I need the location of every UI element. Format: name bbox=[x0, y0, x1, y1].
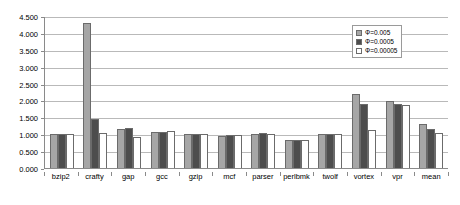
legend-swatch-icon bbox=[356, 30, 362, 36]
legend-item: Φ=0.0005 bbox=[356, 38, 397, 45]
y-tick-label: 0.000 bbox=[19, 165, 38, 174]
x-tick-mark bbox=[78, 172, 79, 176]
legend-label: Φ=0.0005 bbox=[365, 38, 394, 45]
bar-group bbox=[79, 17, 113, 168]
bar bbox=[419, 124, 427, 168]
bar bbox=[66, 134, 74, 168]
bar bbox=[167, 131, 175, 168]
y-tick-label: 1.000 bbox=[19, 131, 38, 140]
y-tick-label: 0.500 bbox=[19, 148, 38, 157]
legend-item: Φ=0.00005 bbox=[356, 47, 397, 54]
bar bbox=[293, 140, 301, 168]
x-tick-label: vpr bbox=[381, 172, 415, 181]
bar bbox=[50, 134, 58, 168]
bar bbox=[117, 129, 125, 168]
bar-group bbox=[280, 17, 314, 168]
x-tick-label: mean bbox=[414, 172, 448, 181]
bar-group bbox=[112, 17, 146, 168]
bar-group bbox=[146, 17, 180, 168]
x-axis: bzip2craftygapgccgzipmcfparserperlbmktwo… bbox=[44, 172, 448, 181]
bar bbox=[267, 134, 275, 168]
y-tick-label: 3.500 bbox=[19, 46, 38, 55]
bar bbox=[435, 133, 443, 168]
y-tick-label: 4.500 bbox=[19, 13, 38, 22]
x-tick-mark bbox=[111, 172, 112, 176]
bar bbox=[218, 136, 226, 168]
legend-label: Φ=0.00005 bbox=[365, 47, 397, 54]
bar bbox=[91, 119, 99, 168]
x-tick-mark bbox=[313, 172, 314, 176]
x-tick-label: mcf bbox=[212, 172, 246, 181]
x-tick-label: perlbmk bbox=[280, 172, 314, 181]
x-tick-label: vortex bbox=[347, 172, 381, 181]
bar bbox=[226, 135, 234, 168]
y-tick-mark bbox=[41, 169, 44, 170]
bar-group bbox=[414, 17, 448, 168]
bar bbox=[352, 94, 360, 168]
y-tick-label: 2.000 bbox=[19, 97, 38, 106]
y-tick-label: 4.000 bbox=[19, 29, 38, 38]
x-tick-mark bbox=[381, 172, 382, 176]
bar bbox=[402, 105, 410, 169]
bar bbox=[285, 140, 293, 168]
legend-swatch-icon bbox=[356, 48, 362, 54]
bar-group bbox=[213, 17, 247, 168]
bar bbox=[83, 23, 91, 168]
bar bbox=[200, 134, 208, 168]
bar bbox=[318, 134, 326, 168]
y-axis: 0.0000.5001.0001.5002.0002.5003.0003.500… bbox=[0, 0, 44, 169]
bar bbox=[251, 134, 259, 168]
x-tick-mark bbox=[414, 172, 415, 176]
bar bbox=[184, 134, 192, 168]
x-tick-mark bbox=[347, 172, 348, 176]
bar bbox=[133, 137, 141, 168]
x-tick-label: parser bbox=[246, 172, 280, 181]
y-tick-label: 3.000 bbox=[19, 63, 38, 72]
bar bbox=[234, 135, 242, 168]
x-tick-mark bbox=[44, 172, 45, 176]
bar bbox=[259, 133, 267, 168]
x-tick-label: twolf bbox=[313, 172, 347, 181]
x-tick-mark bbox=[280, 172, 281, 176]
y-tick-label: 1.500 bbox=[19, 114, 38, 123]
bar bbox=[360, 104, 368, 168]
x-tick-label: gcc bbox=[145, 172, 179, 181]
x-tick-label: crafty bbox=[78, 172, 112, 181]
bar bbox=[427, 129, 435, 168]
bar bbox=[99, 133, 107, 168]
bar bbox=[301, 140, 309, 168]
bar bbox=[192, 134, 200, 168]
x-tick-mark bbox=[145, 172, 146, 176]
bar bbox=[386, 101, 394, 168]
bar-group bbox=[45, 17, 79, 168]
bar bbox=[326, 134, 334, 168]
bar bbox=[58, 134, 66, 168]
bar-group bbox=[246, 17, 280, 168]
y-tick-label: 2.500 bbox=[19, 80, 38, 89]
x-tick-mark bbox=[179, 172, 180, 176]
bar-chart: 0.0000.5001.0001.5002.0002.5003.0003.500… bbox=[0, 0, 460, 205]
bar bbox=[151, 132, 159, 168]
bar bbox=[159, 132, 167, 168]
x-tick-mark bbox=[246, 172, 247, 176]
legend-label: Φ=0.005 bbox=[365, 29, 390, 36]
x-tick-mark bbox=[448, 172, 449, 176]
chart-legend: Φ=0.005Φ=0.0005Φ=0.00005 bbox=[352, 25, 402, 58]
x-tick-label: gap bbox=[111, 172, 145, 181]
bar bbox=[125, 128, 133, 168]
x-tick-label: bzip2 bbox=[44, 172, 78, 181]
bar-group bbox=[314, 17, 348, 168]
bar bbox=[334, 134, 342, 168]
x-tick-mark bbox=[212, 172, 213, 176]
bar bbox=[368, 130, 376, 168]
legend-item: Φ=0.005 bbox=[356, 29, 397, 36]
bar bbox=[394, 104, 402, 168]
bar-group bbox=[179, 17, 213, 168]
x-tick-label: gzip bbox=[179, 172, 213, 181]
legend-swatch-icon bbox=[356, 39, 362, 45]
